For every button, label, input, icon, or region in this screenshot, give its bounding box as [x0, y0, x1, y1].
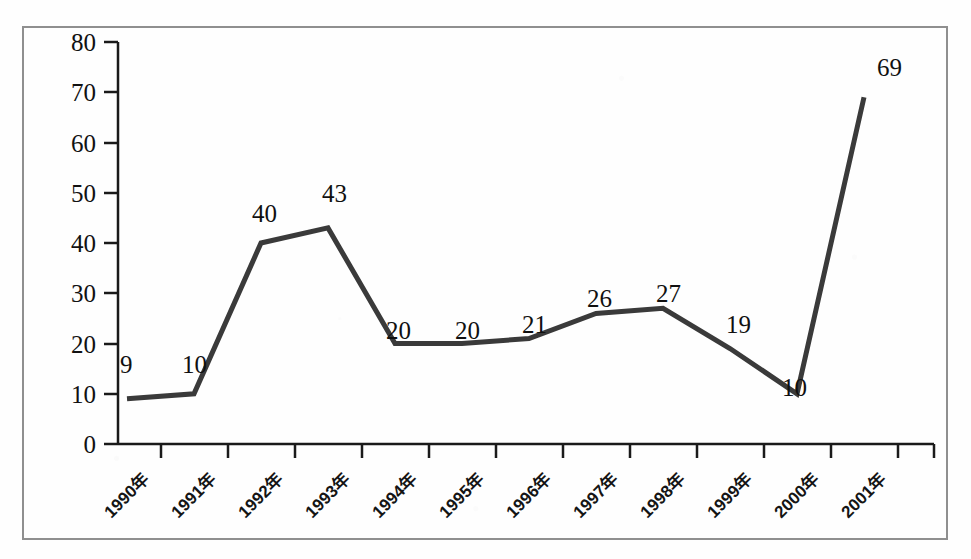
y-tick-label-80: 80 [36, 30, 96, 55]
y-tick-label-0: 0 [36, 432, 96, 457]
data-label-2000: 10 [782, 375, 807, 400]
data-label-1990: 9 [120, 352, 133, 377]
y-tick-label-70: 70 [36, 80, 96, 105]
data-series-line [127, 97, 864, 399]
data-label-1995: 20 [455, 318, 480, 343]
y-tick-label-40: 40 [36, 231, 96, 256]
x-axis-ticks [161, 444, 934, 458]
y-tick-label-50: 50 [36, 181, 96, 206]
data-label-1994: 20 [386, 318, 411, 343]
y-axis-ticks [104, 42, 118, 444]
data-label-1999: 19 [726, 312, 751, 337]
data-label-1997: 26 [587, 286, 612, 311]
data-label-1992: 40 [252, 201, 277, 226]
y-tick-label-30: 30 [36, 281, 96, 306]
data-label-1998: 27 [656, 281, 681, 306]
y-tick-label-60: 60 [36, 131, 96, 156]
data-label-1991: 10 [182, 352, 207, 377]
data-label-2001: 69 [877, 55, 902, 80]
y-tick-label-20: 20 [36, 332, 96, 357]
data-label-1996: 21 [522, 312, 547, 337]
data-label-1993: 43 [322, 181, 347, 206]
chart-page: 80 70 60 50 40 30 20 10 0 1990年 1991年 19… [0, 0, 971, 559]
y-tick-label-10: 10 [36, 382, 96, 407]
